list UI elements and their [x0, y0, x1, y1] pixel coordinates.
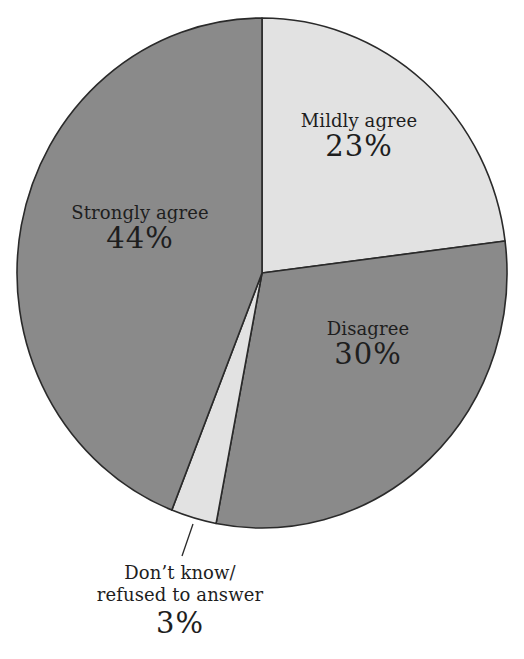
slice-name: Disagree	[327, 320, 409, 338]
slice-name-line2: refused to answer	[97, 584, 263, 606]
pie-slices	[17, 18, 507, 528]
slice-percent: 3%	[97, 609, 263, 638]
label-strongly-agree: Strongly agree 44%	[71, 204, 208, 253]
slice-name: Mildly agree	[301, 112, 417, 130]
label-disagree: Disagree 30%	[327, 320, 409, 369]
leader-line-dont-know	[182, 524, 193, 556]
pie-chart-svg	[0, 0, 524, 659]
slice-percent: 30%	[327, 340, 409, 369]
slice-percent: 44%	[71, 224, 208, 253]
slice-name: Strongly agree	[71, 204, 208, 222]
label-dont-know: Don’t know/ refused to answer 3%	[97, 562, 263, 638]
slice-percent: 23%	[301, 132, 417, 161]
pie-chart: ​ Mildly agree 23% Strongly agree 44% Di…	[0, 0, 524, 659]
label-mildly-agree: Mildly agree 23%	[301, 112, 417, 161]
slice-name-line1: Don’t know/	[97, 562, 263, 584]
